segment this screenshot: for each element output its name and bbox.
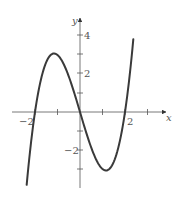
y-axis-label: y — [71, 15, 78, 26]
x-tick-label-2: 2 — [127, 116, 133, 127]
x-axis-label: x — [166, 112, 172, 123]
y-tick-label-neg2: −2 — [64, 145, 79, 156]
x-tick-label-neg2: −2 — [19, 116, 34, 127]
y-tick-label-2: 2 — [84, 68, 90, 79]
cubic-function-plot: −2 2 4 2 −2 y x — [0, 0, 182, 200]
y-tick-label-4: 4 — [84, 30, 90, 41]
